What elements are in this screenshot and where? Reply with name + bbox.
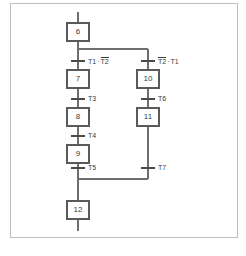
step-label-7: 7 xyxy=(67,75,89,83)
step-label-9: 9 xyxy=(67,150,89,158)
diagram-canvas: 6 7 8 9 10 11 12 T1·T2 T2·T1 T3 T4 T5 T6… xyxy=(0,0,246,256)
step-label-10: 10 xyxy=(137,75,159,83)
sfc-diagram-svg xyxy=(0,0,246,256)
step-label-8: 8 xyxy=(67,113,89,121)
term-t1-right: T1 xyxy=(171,58,179,65)
term-t2-negated: T2 xyxy=(101,57,109,65)
step-label-6: 6 xyxy=(67,28,89,36)
term-t1: T1 xyxy=(88,58,96,65)
term-t2-negated-right: T2 xyxy=(158,57,166,65)
transition-label-t5: T5 xyxy=(88,164,96,171)
transition-label-t1-t2: T1·T2 xyxy=(88,57,109,65)
transition-label-t7: T7 xyxy=(158,164,166,171)
step-label-12: 12 xyxy=(67,206,89,214)
step-label-11: 11 xyxy=(137,113,159,121)
transition-label-t4: T4 xyxy=(88,132,96,139)
transition-label-t3: T3 xyxy=(88,95,96,102)
transition-label-t6: T6 xyxy=(158,95,166,102)
transition-label-t2-t1: T2·T1 xyxy=(158,57,179,65)
